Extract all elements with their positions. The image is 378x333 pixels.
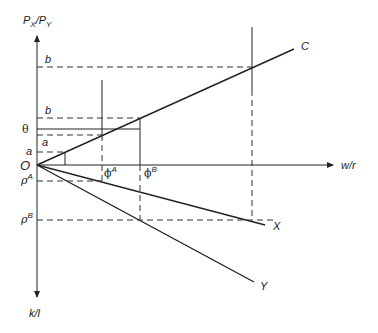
trade-diagram: PX/PY k/l w/r O C X Y b b θ a a ρA ρB ϕA…: [0, 0, 378, 333]
ray-C: [37, 49, 294, 165]
vertical-axis-label: PX/PY: [23, 14, 52, 29]
rho-A-label: ρA: [20, 172, 33, 187]
phi-A-label: ϕA: [104, 165, 117, 180]
horizontal-axis-label: w/r: [341, 159, 357, 171]
phi-B-label: ϕB: [144, 165, 158, 180]
ray-Y: [37, 165, 254, 282]
b-mid-label: b: [45, 104, 51, 116]
ray-Y-label: Y: [260, 280, 268, 292]
vertical-down-axis-label: k/l: [29, 307, 41, 319]
origin-label: O: [20, 158, 30, 173]
theta-label: θ: [22, 123, 29, 136]
b-top-label: b: [45, 53, 51, 65]
a-lower-label: a: [26, 145, 32, 157]
ray-X-label: X: [272, 220, 281, 232]
ray-C-label: C: [301, 40, 309, 52]
a-upper-label: a: [42, 136, 48, 148]
rho-B-label: ρB: [20, 211, 33, 226]
